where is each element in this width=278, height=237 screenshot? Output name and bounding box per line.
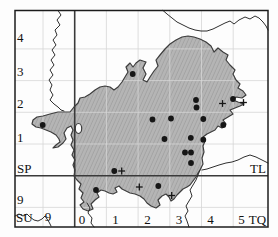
distribution-map: 43219SPSUTLTQ9012345: [0, 0, 278, 237]
axis-label-easting-9: 9: [45, 209, 52, 224]
record-dot: [150, 117, 156, 123]
grid-square-label-tq: TQ: [249, 212, 267, 227]
record-dot: [220, 122, 226, 128]
axis-label-easting-1: 1: [112, 212, 119, 227]
boundary-line: [163, 11, 268, 32]
axis-label-easting-3: 3: [176, 212, 183, 227]
record-dot: [40, 122, 46, 128]
record-dot: [188, 160, 194, 166]
axis-label-easting-5: 5: [238, 212, 245, 227]
record-dot: [182, 150, 188, 156]
record-dot: [155, 183, 161, 189]
grid-square-label-su: SU: [16, 210, 33, 225]
axis-label-northing-2: 2: [17, 96, 24, 111]
record-dot: [193, 97, 199, 103]
axis-label-easting-0: 0: [79, 212, 86, 227]
axis-label-easting-2: 2: [144, 212, 151, 227]
axis-label-northing-1: 1: [17, 130, 24, 145]
record-dot: [168, 116, 174, 122]
record-dot: [194, 105, 200, 111]
axis-label-easting-4: 4: [207, 212, 214, 227]
boundary-line: [49, 11, 64, 112]
record-dot: [188, 135, 194, 141]
axis-label-northing-4: 4: [17, 30, 24, 45]
record-dot: [200, 137, 206, 143]
grid-square-label-sp: SP: [17, 161, 31, 176]
axis-label-northing-3: 3: [17, 64, 24, 79]
axis-label-northing-9: 9: [17, 192, 24, 207]
record-dot: [230, 96, 236, 102]
grid-square-label-tl: TL: [250, 161, 266, 176]
record-dot: [188, 150, 194, 156]
record-dot: [111, 168, 117, 174]
map-figure: 43219SPSUTLTQ9012345: [0, 0, 278, 237]
record-dot: [130, 71, 136, 77]
record-dot: [162, 136, 168, 142]
record-dot: [200, 116, 206, 122]
record-dot: [93, 187, 99, 193]
